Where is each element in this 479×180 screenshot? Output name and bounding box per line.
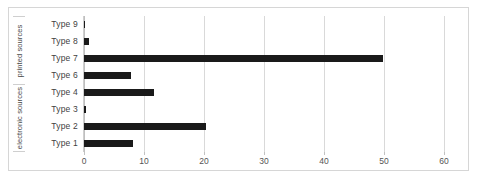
value-axis-tick-label: 30 (259, 156, 268, 166)
value-axis-tick-label: 10 (139, 156, 148, 166)
category-axis-label: Type 6 (20, 70, 78, 80)
value-axis-tick-40 (324, 152, 325, 155)
value-axis-tick-0 (84, 152, 85, 155)
value-axis-tick-10 (144, 152, 145, 155)
bar-type-4 (84, 89, 154, 96)
value-axis-tick-label: 20 (199, 156, 208, 166)
value-axis-tick-label: 50 (379, 156, 388, 166)
category-axis-label: Type 3 (20, 104, 78, 114)
category-axis: Type 9 Type 8 Type 7 Type 6 Type 4 Type … (21, 16, 84, 152)
value-axis-tick-label: 0 (82, 156, 87, 166)
value-axis-tick-60 (444, 152, 445, 155)
value-axis-tick-label: 40 (319, 156, 328, 166)
gridline-0 (84, 16, 85, 152)
value-axis-tick-50 (384, 152, 385, 155)
gridline-10 (144, 16, 145, 152)
category-axis-label: Type 2 (20, 121, 78, 131)
bar-type-8 (84, 38, 89, 45)
gridline-30 (264, 16, 265, 152)
value-axis-tick-label: 60 (439, 156, 448, 166)
gridline-40 (324, 16, 325, 152)
bar-type-6 (84, 72, 131, 79)
value-axis-tick-30 (264, 152, 265, 155)
bar-type-2 (84, 123, 206, 130)
bar-type-3 (84, 106, 86, 113)
gridline-20 (204, 16, 205, 152)
plot-area (84, 16, 445, 152)
category-axis-label: Type 8 (20, 36, 78, 46)
chart-frame: printed sources electronic sources Type … (8, 7, 469, 171)
category-axis-label: Type 4 (20, 87, 78, 97)
bar-type-7 (84, 55, 383, 62)
gridline-60 (444, 16, 445, 152)
value-axis-tick-20 (204, 152, 205, 155)
bar-type-1 (84, 140, 133, 147)
category-axis-label: Type 1 (20, 138, 78, 148)
category-axis-label: Type 9 (20, 19, 78, 29)
category-axis-label: Type 7 (20, 53, 78, 63)
value-axis: 0102030405060 (84, 152, 445, 170)
gridline-50 (384, 16, 385, 152)
bar-type-9 (84, 21, 85, 28)
